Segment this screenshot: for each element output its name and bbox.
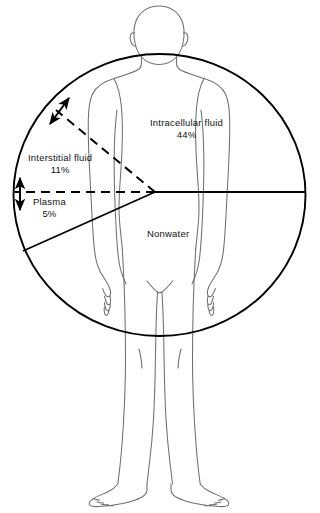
crotch-outline — [147, 281, 173, 293]
neck-right-outline — [182, 71, 205, 79]
neck-left-outline — [114, 71, 137, 79]
label-nonwater-name: Nonwater — [147, 228, 189, 239]
label-interstitial-fluid: Interstitial fluid 11% — [28, 152, 92, 176]
jaw-outline — [142, 57, 177, 65]
left-arm-outer-outline — [88, 79, 114, 279]
human-body-figure — [88, 6, 229, 507]
divider-upper-left-dashed — [56, 110, 155, 192]
label-intracellular-fluid: Intracellular fluid 44% — [150, 117, 223, 141]
right-foot-outline — [171, 484, 229, 507]
label-nonwater: Nonwater — [147, 228, 189, 240]
label-plasma-name: Plasma — [33, 196, 66, 207]
right-leg-inner-outline — [162, 292, 173, 484]
interstitial-span-arrow — [50, 98, 69, 124]
compartment-circle — [14, 54, 306, 336]
head-outline — [134, 6, 184, 71]
diagram-root: Intracellular fluid 44% Interstitial flu… — [0, 0, 320, 513]
left-hand-outline — [103, 279, 111, 316]
label-intracellular-name: Intracellular fluid — [150, 117, 223, 128]
torso-right-outline — [196, 79, 204, 249]
right-knee-outline — [178, 349, 181, 368]
left-arm-inner-outline — [114, 110, 126, 284]
right-hand-outline — [207, 279, 215, 316]
left-knee-outline — [139, 349, 142, 368]
label-plasma-percent: 5% — [33, 208, 66, 220]
right-leg-outer-outline — [193, 248, 201, 484]
right-arm-outer-outline — [204, 79, 230, 279]
label-intracellular-percent: 44% — [150, 129, 223, 141]
torso-left-outline — [114, 79, 122, 249]
left-leg-inner-outline — [147, 292, 158, 484]
label-interstitial-percent: 11% — [28, 164, 92, 176]
body-fluid-compartments-diagram — [0, 0, 320, 513]
left-foot-outline — [89, 484, 147, 507]
left-leg-outer-outline — [118, 248, 126, 484]
label-interstitial-name: Interstitial fluid — [28, 152, 92, 163]
label-plasma: Plasma 5% — [33, 196, 66, 220]
